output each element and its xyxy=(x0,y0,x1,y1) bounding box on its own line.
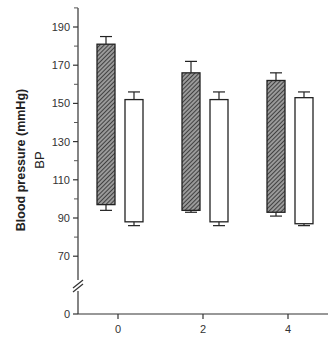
y-tick-label: 110 xyxy=(52,174,70,186)
x-tick-label: 0 xyxy=(115,323,121,335)
x-axis-ticks: 024 xyxy=(115,314,291,335)
x-tick-label: 2 xyxy=(200,323,206,335)
open-bar-4 xyxy=(295,98,313,224)
y-tick-label: 130 xyxy=(52,136,70,148)
hatched-bar-0 xyxy=(97,44,115,204)
y-tick-label: 150 xyxy=(52,97,70,109)
y-axis-ticks: 07090110130150170190 xyxy=(52,8,78,320)
open-bar-2 xyxy=(210,100,228,222)
y-axis-subtitle: BP xyxy=(32,151,47,168)
bar-chart: Blood pressure (mmHg) BP 070901101301501… xyxy=(0,0,335,342)
hatched-bar-2 xyxy=(182,73,200,211)
y-tick-label: 170 xyxy=(52,59,70,71)
hatched-bar-4 xyxy=(267,80,285,212)
open-bar-0 xyxy=(125,100,143,222)
y-tick-label: 70 xyxy=(58,250,70,262)
y-tick-label: 0 xyxy=(64,308,70,320)
y-axis-title: Blood pressure (mmHg) xyxy=(14,89,28,231)
x-tick-label: 4 xyxy=(285,323,291,335)
y-tick-label: 190 xyxy=(52,21,70,33)
bars xyxy=(97,37,313,226)
y-tick-label: 90 xyxy=(58,212,70,224)
